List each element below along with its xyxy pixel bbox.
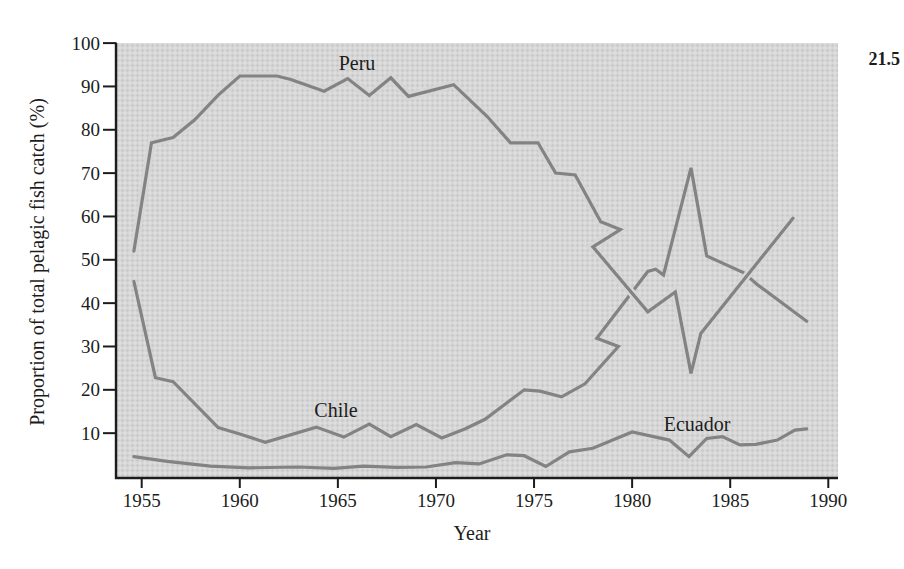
y-tick-label: 10 — [81, 423, 100, 444]
y-tick-label: 80 — [81, 119, 100, 140]
x-axis-ticks: 19551960196519701975198019851990 — [123, 477, 848, 511]
x-tick-label: 1985 — [711, 490, 749, 511]
peru-line-casing — [134, 76, 793, 373]
x-tick-label: 1965 — [319, 490, 357, 511]
figure-number: 21.5 — [869, 49, 901, 69]
pelagic-fish-catch-chart: 102030405060708090100 195519601965197019… — [0, 0, 904, 569]
chile-series-label: Chile — [314, 399, 357, 421]
x-tick-label: 1960 — [221, 490, 259, 511]
peru-line — [134, 76, 793, 373]
y-tick-label: 30 — [81, 336, 100, 357]
peru-series-label: Peru — [339, 52, 376, 74]
x-axis-title: Year — [454, 522, 491, 544]
chile-line — [134, 168, 807, 442]
y-tick-label: 100 — [72, 33, 101, 54]
x-tick-label: 1970 — [417, 490, 455, 511]
x-tick-label: 1990 — [809, 490, 847, 511]
y-tick-label: 70 — [81, 163, 100, 184]
ecuador-series-label: Ecuador — [664, 413, 731, 435]
y-tick-label: 50 — [81, 249, 100, 270]
y-axis-ticks: 102030405060708090100 — [72, 33, 117, 444]
y-axis-title: Proportion of total pelagic fish catch (… — [26, 98, 49, 426]
scanned-textbook-figure: 102030405060708090100 195519601965197019… — [0, 0, 904, 569]
y-tick-label: 40 — [81, 293, 100, 314]
x-tick-label: 1975 — [515, 490, 553, 511]
series-lines — [134, 76, 807, 468]
x-tick-label: 1980 — [613, 490, 651, 511]
y-tick-label: 20 — [81, 379, 100, 400]
y-tick-label: 90 — [81, 76, 100, 97]
x-tick-label: 1955 — [123, 490, 161, 511]
y-tick-label: 60 — [81, 206, 100, 227]
